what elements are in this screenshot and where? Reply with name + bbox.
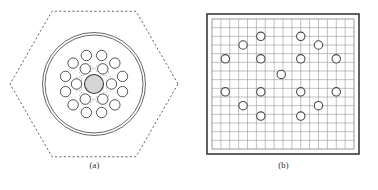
- panel-b-caption: (b): [189, 160, 378, 170]
- air-hole: [117, 86, 127, 96]
- mesh-hole-marker: [221, 88, 229, 96]
- air-hole: [68, 100, 78, 110]
- mesh-hole-marker: [257, 88, 265, 96]
- air-hole: [68, 58, 78, 68]
- air-hole: [110, 100, 120, 110]
- air-hole: [96, 50, 106, 60]
- mesh-hole-marker: [277, 70, 285, 78]
- air-hole: [80, 94, 90, 104]
- mesh-hole-marker: [257, 112, 265, 120]
- mesh-hole-marker: [314, 101, 322, 109]
- panel-a-caption: (a): [0, 160, 189, 170]
- mesh-hole-marker: [297, 88, 305, 96]
- air-hole: [117, 71, 127, 81]
- air-hole: [81, 50, 91, 60]
- mesh-hole-marker: [297, 55, 305, 63]
- mesh-hole-marker: [332, 88, 340, 96]
- air-hole: [98, 94, 108, 104]
- panel-a: (a): [0, 0, 189, 190]
- air-hole: [71, 79, 81, 89]
- mesh-hole-marker: [332, 55, 340, 63]
- panel-a-canvas: [0, 0, 189, 172]
- mesh-hole-marker: [221, 55, 229, 63]
- panel-b-canvas: [189, 0, 378, 172]
- mesh-hole-marker: [257, 55, 265, 63]
- mesh-hole-marker: [297, 112, 305, 120]
- air-hole: [60, 71, 70, 81]
- air-hole: [60, 86, 70, 96]
- mesh-hole-marker: [314, 41, 322, 49]
- air-hole: [80, 64, 90, 74]
- air-hole: [110, 58, 120, 68]
- mesh-hole-marker: [239, 101, 247, 109]
- air-hole: [81, 107, 91, 117]
- figure-root: (a) (b): [0, 0, 378, 190]
- air-hole: [98, 64, 108, 74]
- mesh-hole-marker: [257, 32, 265, 40]
- fiber-core: [85, 75, 104, 94]
- panel-b: (b): [189, 0, 378, 190]
- mesh-hole-marker: [239, 41, 247, 49]
- air-hole: [96, 107, 106, 117]
- air-hole: [106, 79, 116, 89]
- mesh-hole-marker: [297, 32, 305, 40]
